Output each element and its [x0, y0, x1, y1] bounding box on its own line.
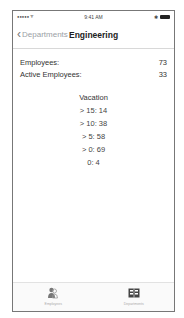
- stat-row-employees: Employees: 73: [20, 57, 167, 69]
- stat-value: 33: [159, 69, 167, 81]
- stat-label: Employees:: [20, 57, 59, 69]
- vacation-item: > 5: 58: [20, 130, 167, 143]
- tab-label: Departments: [124, 302, 144, 306]
- tab-departments[interactable]: Departments: [94, 283, 175, 311]
- vacation-item: > 0: 69: [20, 143, 167, 156]
- vacation-section: Vacation > 15: 14 > 10: 38 > 5: 58 > 0: …: [20, 92, 167, 169]
- stat-row-active-employees: Active Employees: 33: [20, 69, 167, 81]
- stat-value: 73: [159, 57, 167, 69]
- employees-icon: [47, 287, 59, 299]
- stat-label: Active Employees:: [20, 69, 82, 81]
- department-details: Employees: 73 Active Employees: 33 Vacat…: [13, 57, 174, 169]
- chevron-left-icon: ‹: [17, 29, 21, 39]
- vacation-item: 0: 4: [20, 156, 167, 169]
- status-bar: ●●●●● ᯤ 9:41 AM ✱: [13, 11, 174, 23]
- back-label: Departments: [22, 30, 68, 39]
- vacation-heading: Vacation: [20, 92, 167, 104]
- back-button[interactable]: ‹ Departments: [17, 29, 68, 39]
- tab-bar: Employees Departments: [13, 282, 174, 311]
- navigation-bar: ‹ Departments Engineering: [13, 23, 174, 49]
- bluetooth-icon: ✱: [154, 14, 158, 20]
- tab-employees[interactable]: Employees: [13, 283, 94, 311]
- battery-icon: [160, 15, 170, 19]
- status-right: ✱: [154, 14, 170, 20]
- departments-icon: [128, 287, 140, 299]
- status-time: 9:41 AM: [13, 14, 174, 20]
- phone-frame: ●●●●● ᯤ 9:41 AM ✱ ‹ Departments Engineer…: [12, 10, 175, 312]
- vacation-item: > 10: 38: [20, 117, 167, 130]
- vacation-item: > 15: 14: [20, 104, 167, 117]
- page-title: Engineering: [69, 30, 118, 40]
- tab-label: Employees: [45, 302, 62, 306]
